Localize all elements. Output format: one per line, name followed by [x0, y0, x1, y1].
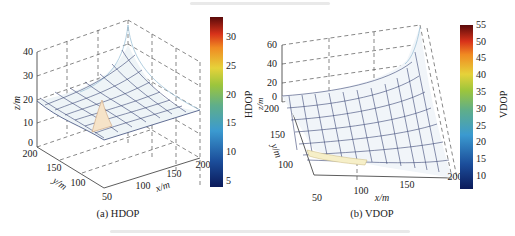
x-tick: 100	[354, 185, 369, 196]
x-tick: 150	[400, 179, 415, 190]
cb-tick: 50	[476, 36, 486, 47]
cb-tick: 25	[476, 120, 486, 131]
faint-bottom-caption	[110, 230, 410, 233]
z-tick: 10	[23, 117, 33, 128]
cb-tick: 30	[476, 103, 486, 114]
cb-tick: 20	[226, 89, 236, 100]
faint-top-caption	[190, 2, 330, 5]
x-tick: 150	[167, 168, 182, 179]
y-tick: 100	[278, 159, 293, 170]
colorbar-label: HDOP	[243, 90, 254, 118]
z-axis-label: z/m	[11, 96, 22, 111]
cb-tick: 15	[226, 117, 236, 128]
y-axis-label: y/m	[50, 174, 69, 192]
hdop-colorbar-fill	[210, 17, 223, 187]
cb-tick: 25	[226, 60, 236, 71]
y-tick: 150	[270, 129, 285, 140]
cb-tick: 55	[476, 19, 486, 30]
z-tick: 60	[267, 39, 277, 50]
vdop-colorbar	[460, 25, 473, 189]
hdop-panel: 40 30 20 10 0 z/m 200 150 100 50 y/m 100…	[0, 0, 258, 236]
z-tick: 0	[28, 137, 33, 148]
cb-tick: 15	[476, 153, 486, 164]
hdop-caption: (a) HDOP	[58, 208, 178, 219]
x-tick: 200	[196, 159, 211, 170]
z-tick: 20	[267, 77, 277, 88]
cb-tick: 10	[476, 170, 486, 181]
z-tick: 0	[272, 91, 277, 102]
z-tick: 40	[23, 46, 33, 57]
hdop-surface-plot: 40 30 20 10 0 z/m 200 150 100 50 y/m 100…	[0, 0, 258, 236]
z-tick: 20	[23, 94, 33, 105]
y-tick: 150	[47, 162, 62, 173]
z-tick: 30	[23, 70, 33, 81]
y-tick: 200	[264, 103, 279, 114]
y-tick: 200	[23, 148, 38, 159]
cb-tick: 30	[226, 31, 236, 42]
y-tick: 100	[71, 177, 86, 188]
x-tick: 50	[312, 192, 322, 203]
x-axis-label: x/m	[374, 192, 389, 203]
x-axis-label: x/m	[153, 179, 171, 195]
y-tick: 50	[102, 191, 112, 202]
cb-tick: 35	[476, 86, 486, 97]
cb-tick: 10	[226, 146, 236, 157]
cb-tick: 5	[226, 175, 231, 186]
cb-tick: 45	[476, 52, 486, 63]
vdop-caption: (b) VDOP	[312, 208, 432, 219]
cb-tick: 40	[476, 69, 486, 80]
vdop-surface-plot: 60 40 20 0 z/m 200 150 100 y/m 50 100 15…	[257, 0, 515, 236]
y-axis-label: y/m	[269, 141, 285, 159]
vdop-panel: 60 40 20 0 z/m 200 150 100 y/m 50 100 15…	[257, 0, 515, 236]
z-tick: 40	[267, 58, 277, 69]
colorbar-label: VDOP	[498, 90, 509, 118]
x-tick: 100	[136, 180, 151, 191]
hdop-surface	[37, 25, 200, 140]
cb-tick: 20	[476, 136, 486, 147]
